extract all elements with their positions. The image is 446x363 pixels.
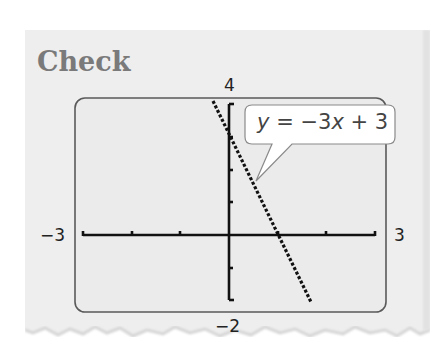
intercept-constant: 3: [375, 110, 388, 134]
graphing-calculator-screen: [0, 0, 446, 363]
slope-coefficient: −3: [300, 110, 331, 134]
x-max-label: 3: [394, 227, 405, 244]
plus-sign: +: [351, 110, 369, 134]
y-max-label: 4: [224, 77, 235, 94]
y-min-label: −2: [215, 318, 240, 335]
x-min-label: −3: [40, 227, 65, 244]
equals-sign: =: [276, 110, 294, 134]
y-variable: y: [257, 110, 269, 134]
x-variable: x: [331, 110, 343, 134]
equation-label: y = −3x + 3: [257, 112, 388, 133]
